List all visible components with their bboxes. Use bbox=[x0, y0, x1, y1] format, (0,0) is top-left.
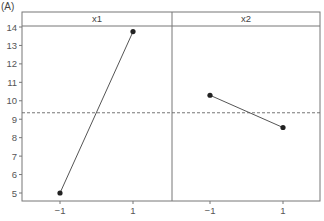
plot-frame bbox=[22, 12, 320, 201]
figure-label: (A) bbox=[1, 1, 14, 12]
y-tick-label: 6 bbox=[12, 169, 17, 180]
effect-line-x1 bbox=[60, 32, 133, 193]
y-tick-label: 12 bbox=[6, 58, 17, 69]
effect-line-x2 bbox=[210, 95, 283, 127]
x-tick-label: −1 bbox=[205, 205, 216, 216]
x-tick-label: −1 bbox=[55, 205, 66, 216]
x-tick-label: 1 bbox=[280, 205, 285, 216]
y-tick-label: 10 bbox=[6, 95, 17, 106]
panel-label-x2: x2 bbox=[241, 13, 251, 24]
data-point-x1 bbox=[130, 29, 135, 34]
x-tick-label: 1 bbox=[130, 205, 135, 216]
y-tick-label: 7 bbox=[12, 151, 17, 162]
y-tick-label: 5 bbox=[12, 188, 17, 199]
main-effects-chart: (A)567891011121314x1−11x2−11 bbox=[0, 0, 324, 221]
data-point-x1 bbox=[57, 190, 62, 195]
y-tick-label: 14 bbox=[6, 22, 17, 33]
data-point-x2 bbox=[207, 93, 212, 98]
y-tick-label: 9 bbox=[12, 114, 17, 125]
y-tick-label: 13 bbox=[6, 40, 17, 51]
panel-label-x1: x1 bbox=[92, 13, 102, 24]
y-tick-label: 11 bbox=[7, 77, 17, 88]
y-tick-label: 8 bbox=[12, 132, 17, 143]
data-point-x2 bbox=[280, 125, 285, 130]
